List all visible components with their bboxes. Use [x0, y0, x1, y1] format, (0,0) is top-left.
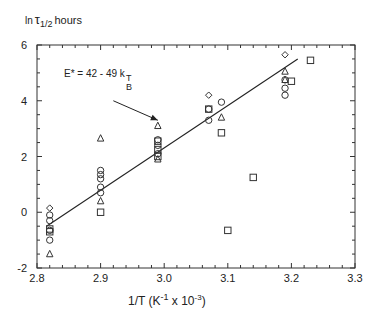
triangle-marker — [97, 197, 103, 203]
y-label-unit: hours — [54, 14, 82, 26]
x-tick-label: 2.8 — [29, 272, 44, 284]
y-tick-label: 2 — [21, 151, 27, 163]
annotation-text: E* = 42 - 49 k — [64, 68, 125, 79]
y-tick-label: 4 — [21, 95, 27, 107]
diamond-marker — [206, 92, 212, 98]
annotation-label: E* = 42 - 49 k T B — [64, 68, 133, 79]
x-tick-label: 2.9 — [93, 272, 108, 284]
square-marker — [225, 227, 231, 233]
y-tick-label: 6 — [21, 39, 27, 51]
chart-plot-area: 2.82.93.03.13.23.3-20246 — [0, 0, 378, 331]
triangle-marker — [97, 135, 103, 141]
x-tick-label: 3.1 — [220, 272, 235, 284]
circle-marker — [206, 106, 212, 112]
circle-marker — [282, 92, 288, 98]
x-label-post: ) — [202, 294, 206, 308]
circle-marker — [97, 176, 103, 182]
diamond-marker — [282, 52, 288, 58]
annotation-arrow — [113, 101, 158, 121]
x-label-mid: x 10 — [168, 294, 194, 308]
y-tick-label: -2 — [17, 262, 27, 274]
circle-marker — [47, 237, 53, 243]
x-label-pre: 1/T (K — [128, 294, 160, 308]
circle-marker — [282, 85, 288, 91]
triangle-marker — [155, 122, 161, 128]
x-tick-label: 3.3 — [347, 272, 362, 284]
x-axis-label: 1/T (K-1 x 10-3) — [128, 292, 206, 308]
diamond-marker — [47, 205, 53, 211]
y-axis-label: lnτ1/2hours — [25, 12, 82, 29]
circle-marker — [218, 99, 224, 105]
square-marker — [288, 78, 294, 84]
y-label-ln: ln — [25, 15, 33, 26]
y-tick-label: 0 — [21, 206, 27, 218]
square-marker — [307, 57, 313, 63]
y-label-sub: 1/2 — [40, 19, 53, 29]
annotation-sub: B — [126, 82, 132, 92]
square-marker — [218, 130, 224, 136]
triangle-marker — [218, 114, 224, 120]
x-tick-label: 3.0 — [157, 272, 172, 284]
fit-line — [47, 59, 298, 226]
x-tick-label: 3.2 — [284, 272, 299, 284]
triangle-marker — [47, 250, 53, 256]
square-marker — [250, 174, 256, 180]
square-marker — [97, 209, 103, 215]
x-label-sup2: -3 — [195, 293, 202, 302]
